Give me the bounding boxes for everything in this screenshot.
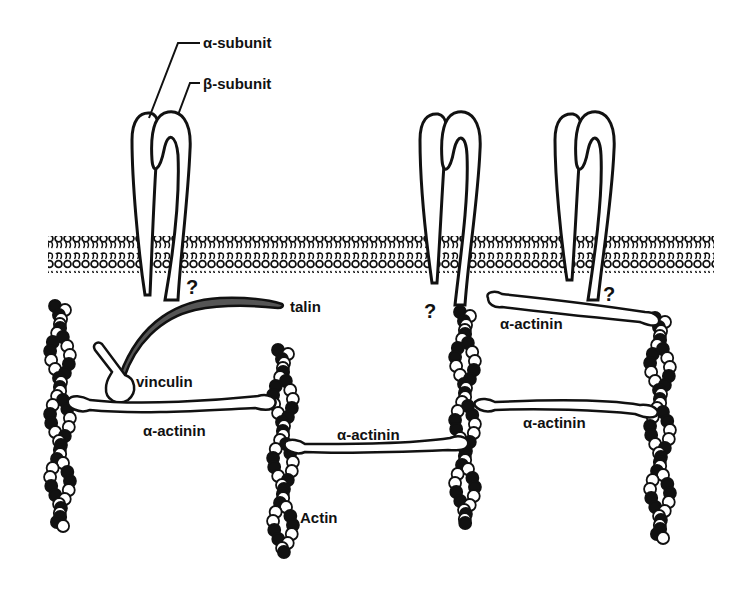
vinculin-label: vinculin: [136, 373, 193, 390]
alpha-actinin-label-4: α-actinin: [500, 315, 563, 332]
question-mark-2: ?: [424, 300, 436, 322]
alpha-subunit-label: α-subunit: [203, 34, 271, 51]
beta-subunit-label: β-subunit: [203, 75, 271, 92]
integrin-diagram: α-subunit β-subunit talin vinculin ? ? ?…: [0, 0, 741, 589]
actin-filament-1: [44, 300, 76, 532]
talin-rod: [120, 298, 283, 378]
alpha-actinin-label-1: α-actinin: [143, 422, 206, 439]
question-mark-3: ?: [603, 283, 615, 305]
alpha-actinin-label-3: α-actinin: [523, 414, 586, 431]
question-mark-1: ?: [186, 276, 198, 298]
integrin-2: [420, 112, 480, 305]
alpha-actinin-label-2: α-actinin: [337, 426, 400, 443]
alpha-actinin-rod-1: [68, 395, 276, 412]
alpha-subunit-leader: [149, 43, 200, 118]
actin-filament-4: [644, 312, 676, 544]
talin-label: talin: [290, 298, 321, 315]
actin-label: Actin: [300, 509, 338, 526]
beta-subunit-leader: [178, 83, 200, 115]
vinculin: [94, 343, 134, 403]
actin-filament-3: [449, 306, 481, 529]
